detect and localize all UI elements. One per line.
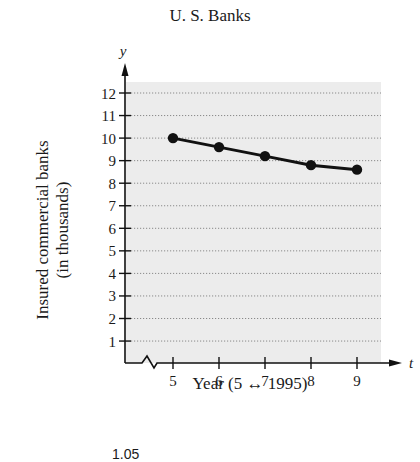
y-axis-label-line-1: Insured commercial banks [33, 140, 53, 319]
data-point [306, 160, 316, 170]
y-tick-label: 4 [109, 266, 117, 282]
y-axis-label-wrap: Insured commercial banks (in thousands) [18, 110, 88, 350]
y-tick-label: 3 [109, 288, 117, 304]
data-point [352, 164, 362, 174]
y-tick-label: 7 [109, 198, 117, 214]
cropped-text-fragment: 1.05 [112, 446, 139, 462]
y-tick-label: 5 [109, 243, 117, 259]
y-tick-label: 1 [109, 334, 117, 350]
y-tick-label: 8 [109, 176, 117, 192]
plot-background [126, 82, 381, 363]
y-tick-label: 6 [109, 221, 117, 237]
data-point [260, 151, 270, 161]
y-tick-label: 10 [101, 131, 116, 147]
x-axis-label: Year (5 ↔ 1995) [125, 374, 375, 394]
data-point [214, 142, 224, 152]
y-axis-symbol: y [118, 43, 127, 59]
y-axis-label: Insured commercial banks (in thousands) [33, 140, 73, 319]
data-point [168, 133, 178, 143]
x-axis-arrow-icon [389, 360, 402, 367]
y-tick-label: 9 [109, 153, 117, 169]
x-axis-symbol: t [409, 355, 414, 371]
y-tick-label: 12 [101, 86, 116, 102]
y-axis-label-line-2: (in thousands) [53, 140, 73, 319]
y-tick-label: 11 [102, 108, 116, 124]
y-tick-label: 2 [109, 311, 117, 327]
y-axis-arrow-icon [122, 63, 129, 76]
